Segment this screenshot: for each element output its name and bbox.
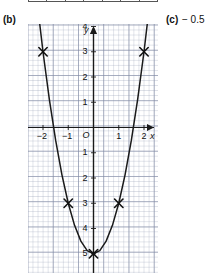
table-cell: 3: [140, 0, 157, 1]
x-tick-label: 2: [141, 132, 146, 141]
y-axis-label: y: [84, 26, 89, 35]
x-tick-label: −2: [37, 132, 47, 141]
table-cell: -2: [47, 0, 65, 1]
x-axis-arrow: [147, 124, 154, 131]
x-tick-label: −1: [62, 132, 72, 141]
y-tick-label: 3: [83, 199, 88, 208]
graph-panel: −2−1124321123456Oyx: [28, 24, 158, 273]
table-cell: -1: [66, 0, 84, 1]
y-tick-label: 1: [83, 148, 88, 157]
table-cell: 2: [121, 0, 139, 1]
plot-svg: [28, 24, 158, 273]
part-label-b: (b): [3, 14, 16, 25]
part-label-c: (c): [166, 14, 178, 25]
part-c-answer: − 0.5: [182, 14, 205, 25]
y-axis-arrow: [90, 26, 97, 34]
y-tick-label: 2: [83, 174, 88, 183]
y-tick-label: 3: [83, 47, 88, 56]
x-tick-label: 1: [116, 132, 121, 141]
table-strip-cutoff: -3 -2 -1 0 1 2 3: [28, 0, 158, 2]
y-tick-label: 5: [83, 249, 88, 258]
figure-root: -3 -2 -1 0 1 2 3 (b) (c) − 0.5 −2−112432…: [0, 0, 210, 273]
origin-label: O: [83, 131, 90, 140]
y-tick-label: 1: [83, 98, 88, 107]
table-cell: 1: [103, 0, 121, 1]
table-cell: 0: [84, 0, 102, 1]
table-cell: -3: [29, 0, 47, 1]
y-tick-label: 2: [83, 73, 88, 82]
x-axis-label: x: [150, 132, 155, 141]
y-tick-label: 4: [83, 224, 88, 233]
